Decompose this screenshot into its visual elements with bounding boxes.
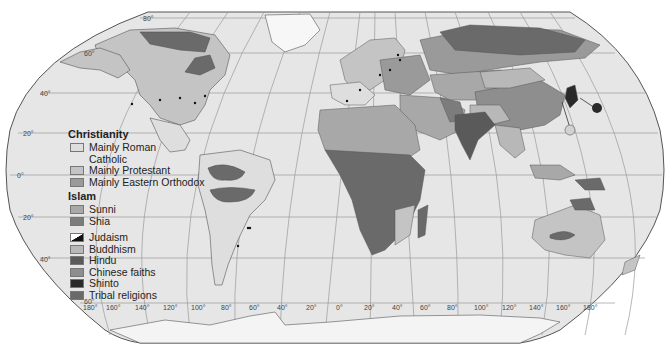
map-legend: Christianity Mainly Roman Catholic Mainl… <box>68 128 268 301</box>
legend-item-hindu: Hindu <box>68 255 268 267</box>
buddhism-swatch <box>70 245 84 254</box>
legend-item-judaism: Judaism <box>68 232 268 244</box>
lon-40w-label: 40° <box>277 304 288 311</box>
lon-160w-label: 160° <box>106 304 121 311</box>
chinese-faiths-swatch <box>70 268 84 277</box>
lat-60n-label: 60° <box>84 50 95 57</box>
lon-60e-label: 60° <box>420 304 431 311</box>
legend-label: Mainly Eastern Orthodox <box>89 177 205 189</box>
lon-180w-label: 180° <box>83 304 98 311</box>
lon-40e-label: 40° <box>392 304 403 311</box>
lon-20w-label: 20° <box>306 304 317 311</box>
hindu-swatch <box>70 256 84 265</box>
sunni-swatch <box>70 205 84 214</box>
legend-label: Shinto <box>89 278 119 290</box>
protestant-swatch <box>70 166 84 175</box>
lon-0-label: 0° <box>336 304 343 311</box>
legend-item-eastern-orthodox: Mainly Eastern Orthodox <box>68 177 268 189</box>
tribal-religions-swatch <box>70 291 84 300</box>
lon-20e-label: 20° <box>364 304 375 311</box>
legend-item-roman-catholic: Mainly Roman Catholic <box>68 142 268 165</box>
shinto-swatch <box>70 279 84 288</box>
lon-100e-label: 100° <box>474 304 489 311</box>
lon-100w-label: 100° <box>191 304 206 311</box>
lon-80w-label: 80° <box>221 304 232 311</box>
lat-40s-label: 40° <box>40 256 51 263</box>
legend-label: Mainly Protestant <box>89 165 170 177</box>
lon-180e-label: 180° <box>583 304 598 311</box>
eastern-orthodox-swatch <box>70 178 84 187</box>
legend-label-line2: Catholic <box>89 153 127 165</box>
legend-label: Tribal religions <box>89 290 157 302</box>
lat-20n-label: 20° <box>23 130 34 137</box>
roman-catholic-swatch <box>70 143 84 152</box>
legend-item-shia: Shia <box>68 216 268 228</box>
legend-label: Judaism <box>89 232 128 244</box>
legend-label: Shia <box>89 216 110 228</box>
lon-120e-label: 120° <box>502 304 517 311</box>
lat-80n-label: 80° <box>143 15 154 22</box>
lon-160e-label: 160° <box>556 304 571 311</box>
legend-item-tribal-religions: Tribal religions <box>68 290 268 302</box>
lat-20s-label: 20° <box>23 214 34 221</box>
lat-0-label: 0° <box>17 172 24 179</box>
lat-40n-label: 40° <box>40 90 51 97</box>
legend-label-line1: Mainly Roman <box>89 141 156 153</box>
lon-140e-label: 140° <box>529 304 544 311</box>
lon-120w-label: 120° <box>163 304 178 311</box>
shia-swatch <box>70 217 84 226</box>
judaism-swatch <box>70 233 84 242</box>
legend-heading-islam: Islam <box>68 190 268 203</box>
legend-item-protestant: Mainly Protestant <box>68 165 268 177</box>
legend-label: Sunni <box>89 204 116 216</box>
lon-140w-label: 140° <box>135 304 150 311</box>
legend-label: Mainly Roman Catholic <box>89 142 156 165</box>
legend-item-shinto: Shinto <box>68 278 268 290</box>
lon-80e-label: 80° <box>447 304 458 311</box>
legend-heading-christianity: Christianity <box>68 128 268 141</box>
lon-60w-label: 60° <box>249 304 260 311</box>
legend-item-sunni: Sunni <box>68 204 268 216</box>
legend-label: Hindu <box>89 255 116 267</box>
